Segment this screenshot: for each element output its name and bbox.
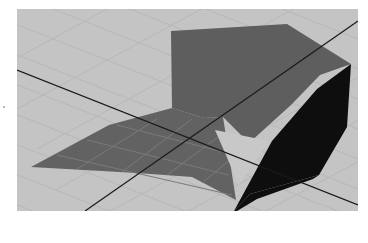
3d-viewport[interactable] bbox=[17, 9, 358, 211]
viewport-canvas[interactable] bbox=[17, 9, 358, 211]
side-marker-dot bbox=[3, 106, 5, 108]
